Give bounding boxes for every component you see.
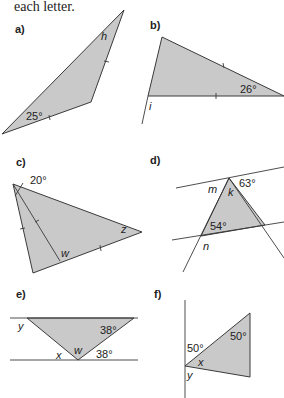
angle-label: 20° bbox=[30, 174, 47, 186]
unknown-m: m bbox=[208, 183, 217, 195]
unknown-z: z bbox=[120, 223, 127, 235]
panel-label: e) bbox=[16, 288, 26, 300]
panel-label: c) bbox=[16, 156, 26, 168]
unknown-h: h bbox=[101, 30, 107, 42]
angle-exercise-figure: each letter. a) h 25° b) i 26° c) 20° w … bbox=[0, 0, 284, 398]
panel-b: b) i 26° bbox=[142, 19, 284, 124]
angle-label: 25° bbox=[26, 110, 43, 122]
unknown-i: i bbox=[149, 100, 152, 112]
panel-e: e) y 38° w x 38° bbox=[10, 288, 138, 361]
panel-label: b) bbox=[150, 19, 161, 31]
angle-label: 54° bbox=[210, 220, 227, 232]
angle-label: 38° bbox=[100, 324, 117, 336]
panel-d: d) m k 63° 54° n bbox=[150, 154, 284, 272]
angle-label: 38° bbox=[96, 348, 113, 360]
panel-label: a) bbox=[15, 23, 25, 35]
panel-label: f) bbox=[154, 288, 162, 300]
unknown-w: w bbox=[74, 344, 83, 356]
angle-label: 63° bbox=[239, 177, 256, 189]
unknown-y: y bbox=[186, 369, 194, 381]
panel-label: d) bbox=[150, 154, 161, 166]
unknown-x: x bbox=[197, 356, 204, 368]
unknown-y: y bbox=[17, 320, 25, 332]
panel-c: c) 20° w z bbox=[13, 156, 142, 273]
instruction-text: each letter. bbox=[14, 0, 75, 14]
triangle bbox=[148, 37, 284, 96]
panel-a: a) h 25° bbox=[2, 10, 124, 134]
unknown-x: x bbox=[55, 349, 62, 361]
unknown-n: n bbox=[203, 240, 209, 252]
panel-f: f) 50° 50° x y bbox=[154, 288, 250, 398]
angle-label: 50° bbox=[230, 330, 247, 342]
angle-label: 50° bbox=[187, 342, 204, 354]
unknown-k: k bbox=[228, 186, 234, 198]
extended-side bbox=[142, 96, 148, 124]
angle-label: 26° bbox=[240, 83, 257, 95]
unknown-w: w bbox=[61, 247, 70, 259]
